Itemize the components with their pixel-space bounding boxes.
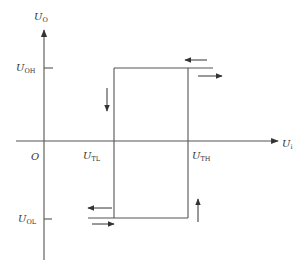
- origin-label: O: [31, 151, 39, 162]
- x-axis-label: Ui: [282, 138, 293, 151]
- utl-label: UTL: [83, 150, 101, 163]
- uth-label: UTH: [192, 150, 211, 163]
- uoh-label: UOH: [16, 62, 36, 75]
- uol-label: UOL: [18, 213, 37, 226]
- hysteresis-diagram: UO Ui O UOH UOL UTL UTH: [0, 0, 307, 274]
- y-axis-label: UO: [34, 11, 48, 24]
